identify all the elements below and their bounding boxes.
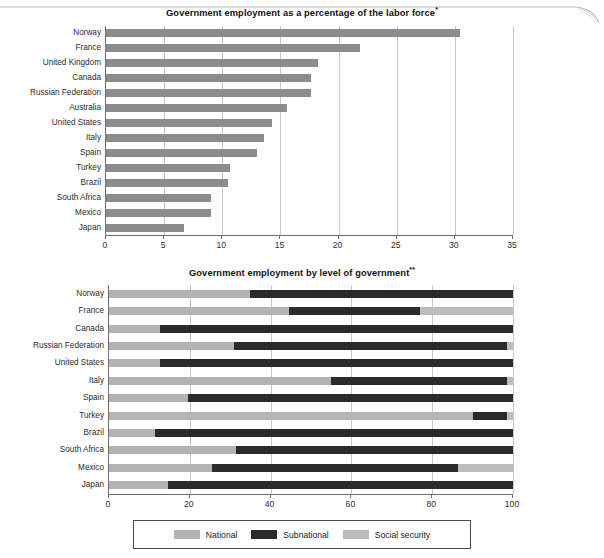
y-axis-label: France — [76, 43, 101, 53]
x-axis-tick-label: 5 — [148, 240, 178, 250]
bar-row — [106, 59, 513, 67]
y-axis-label: Russian Federation — [33, 341, 104, 351]
bar-row — [106, 179, 513, 187]
bar-row — [106, 119, 513, 127]
bar-row — [106, 89, 513, 97]
y-axis-label: Italy — [86, 133, 101, 143]
gridline — [432, 285, 433, 494]
bar-segment — [109, 290, 250, 298]
x-axis-tick-label: 20 — [174, 499, 204, 509]
legend-swatch-social-security — [343, 530, 369, 539]
y-axis-label: Japan — [82, 480, 104, 490]
legend-label-national: National — [206, 530, 238, 540]
bar-segment — [106, 149, 257, 157]
x-axis-tick-mark — [512, 495, 513, 498]
bar-segment — [109, 307, 289, 315]
bar-segment — [109, 342, 234, 350]
bar-segment — [236, 446, 513, 454]
x-axis-tick-mark — [189, 495, 190, 498]
x-axis-tick-label: 60 — [335, 499, 365, 509]
x-axis-tick-label: 25 — [381, 240, 411, 250]
bottom-chart-title-superscript: ** — [409, 266, 415, 273]
bar-segment — [109, 481, 168, 489]
y-axis-label: United States — [55, 358, 104, 368]
bar-row — [109, 290, 513, 298]
x-axis-tick-label: 0 — [93, 499, 123, 509]
x-axis-tick-mark — [279, 236, 280, 239]
bar-segment — [106, 179, 228, 187]
y-axis-label: Norway — [73, 28, 101, 38]
bar-segment — [212, 464, 458, 472]
bar-segment — [106, 29, 460, 37]
gridline — [190, 285, 191, 494]
figure-root: Government employment as a percentage of… — [0, 0, 604, 558]
top-chart-title-text: Government employment as a percentage of… — [166, 8, 435, 18]
bar-row — [106, 224, 513, 232]
x-axis-tick-mark — [350, 495, 351, 498]
y-axis-label: Russian Federation — [30, 88, 101, 98]
bar-segment — [106, 74, 311, 82]
bar-segment — [289, 307, 420, 315]
bar-segment — [188, 394, 513, 402]
bar-segment — [109, 429, 155, 437]
y-axis-label: Mexico — [78, 463, 104, 473]
bar-segment — [168, 481, 513, 489]
bar-row — [106, 194, 513, 202]
bar-row — [106, 74, 513, 82]
bar-segment — [109, 412, 473, 420]
bar-row — [106, 29, 513, 37]
y-axis-label: Australia — [69, 103, 101, 113]
bar-segment — [473, 412, 507, 420]
legend-item-national[interactable]: National — [174, 530, 238, 540]
y-axis-label: Canada — [75, 324, 104, 334]
bar-segment — [507, 412, 513, 420]
bar-segment — [507, 377, 513, 385]
x-axis-tick-mark — [105, 236, 106, 239]
bottom-chart-title-text: Government employment by level of govern… — [189, 268, 409, 278]
bar-segment — [109, 359, 160, 367]
legend-swatch-subnational — [251, 530, 277, 539]
bar-segment — [420, 307, 513, 315]
gridline — [271, 285, 272, 494]
bar-row — [109, 412, 513, 420]
y-axis-label: South Africa — [60, 445, 104, 455]
bar-row — [106, 104, 513, 112]
top-chart-plot-area — [105, 26, 513, 236]
x-axis-tick-label: 10 — [206, 240, 236, 250]
bar-segment — [106, 104, 287, 112]
legend-item-social-security[interactable]: Social security — [343, 530, 430, 540]
x-axis-tick-label: 20 — [323, 240, 353, 250]
bar-segment — [458, 464, 513, 472]
gridline — [351, 285, 352, 494]
y-axis-label: Turkey — [76, 163, 101, 173]
y-axis-label: Mexico — [75, 208, 101, 218]
gridline — [397, 26, 398, 235]
bar-segment — [106, 224, 184, 232]
x-axis-tick-label: 80 — [416, 499, 446, 509]
y-axis-label: Brazil — [81, 178, 101, 188]
bar-segment — [106, 134, 264, 142]
bar-segment — [331, 377, 507, 385]
bar-row — [106, 44, 513, 52]
bar-row — [106, 149, 513, 157]
y-axis-label: South Africa — [57, 193, 101, 203]
bottom-chart-title: Government employment by level of govern… — [0, 266, 604, 278]
x-axis-tick-mark — [221, 236, 222, 239]
bar-row — [109, 394, 513, 402]
bar-segment — [234, 342, 507, 350]
top-chart-title: Government employment as a percentage of… — [0, 6, 604, 18]
legend-swatch-national — [174, 530, 200, 539]
x-axis-tick-label: 0 — [90, 240, 120, 250]
x-axis-tick-label: 100 — [497, 499, 527, 509]
bar-row — [109, 377, 513, 385]
y-axis-label: Brazil — [84, 428, 104, 438]
bar-row — [106, 134, 513, 142]
bar-row — [109, 429, 513, 437]
x-axis-tick-mark — [108, 495, 109, 498]
x-axis-tick-mark — [396, 236, 397, 239]
bar-row — [106, 164, 513, 172]
bar-row — [109, 307, 513, 315]
legend-item-subnational[interactable]: Subnational — [251, 530, 328, 540]
bar-row — [109, 464, 513, 472]
y-axis-label: France — [79, 306, 104, 316]
